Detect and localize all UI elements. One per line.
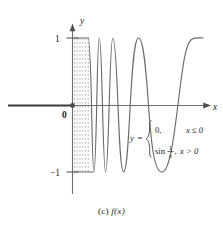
y-axis-label: y	[79, 16, 85, 26]
caption-function: f(x)	[111, 206, 125, 216]
formula-case-2-comma: ,	[175, 146, 177, 156]
x-axis-arrowhead	[203, 103, 211, 109]
formula-lhs: y	[129, 133, 134, 143]
origin-point	[70, 103, 75, 108]
y-tick-label-1: 1	[55, 34, 60, 44]
piecewise-formula-annotation: y = 0, x ≤ 0 sin 1 x , x > 0	[129, 121, 204, 160]
caption-prefix: (c)	[98, 206, 109, 216]
plot-svg: y x 1 −1 0 y = 0, x ≤ 0 sin 1 x , x > 0	[0, 0, 223, 232]
figure-caption: (c) f(x)	[0, 206, 223, 216]
x-axis-label: x	[212, 102, 218, 112]
figure-sin-one-over-x: y x 1 −1 0 y = 0, x ≤ 0 sin 1 x , x > 0	[0, 0, 223, 232]
formula-fraction-numerator: 1	[169, 144, 172, 151]
formula-fraction-denominator: x	[168, 152, 172, 159]
y-tick-label-minus-1: −1	[50, 168, 60, 178]
y-axis-arrowhead	[70, 24, 76, 32]
formula-equals: =	[138, 133, 143, 143]
origin-label: 0	[62, 110, 67, 120]
formula-case-1-value: 0,	[155, 125, 161, 135]
formula-case-1-condition: x ≤ 0	[185, 125, 204, 135]
y-axis	[70, 24, 76, 195]
formula-case-2-value-prefix: sin	[155, 146, 166, 156]
formula-case-2-condition: x > 0	[179, 146, 199, 156]
